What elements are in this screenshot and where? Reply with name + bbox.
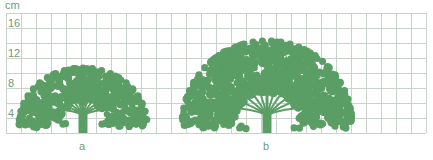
tree-b-label: b <box>263 141 269 152</box>
unit-label: cm <box>5 0 20 11</box>
tree-size-diagram: cm 16 12 8 4 a b <box>0 0 433 160</box>
y-tick-16: 16 <box>8 18 20 29</box>
tree-a <box>16 64 151 133</box>
tree-a-label: a <box>79 141 85 152</box>
y-tick-8: 8 <box>8 78 14 89</box>
y-tick-12: 12 <box>8 48 20 59</box>
trees-illustration <box>0 0 433 160</box>
y-tick-4: 4 <box>8 108 14 119</box>
tree-b <box>179 38 355 134</box>
